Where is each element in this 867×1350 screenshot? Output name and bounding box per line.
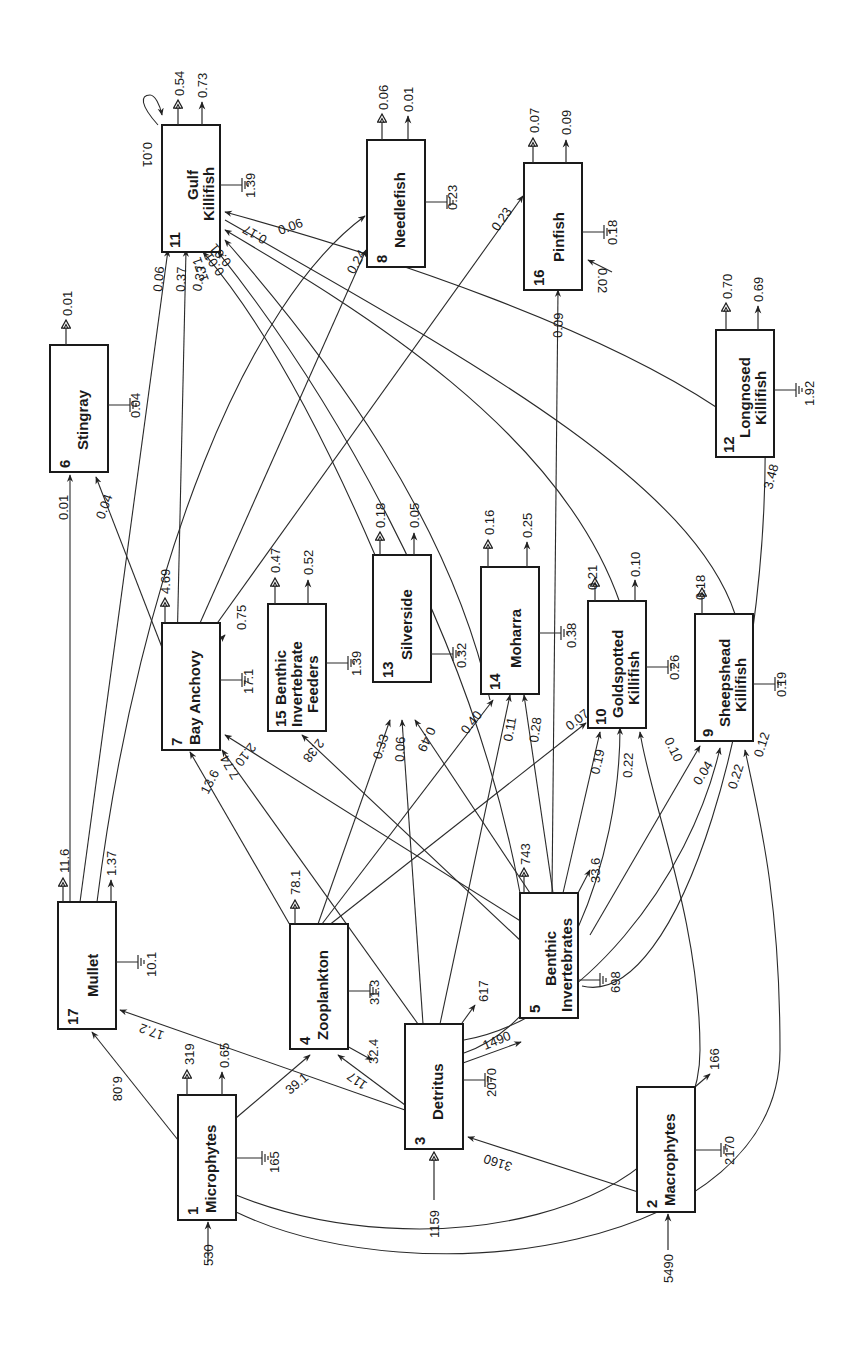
box-name-detritus: Detritus <box>429 1063 446 1120</box>
resp-3: 2070 <box>484 1068 499 1097</box>
box-num-7: 7 <box>168 738 185 746</box>
flow-11-self <box>143 95 162 125</box>
flow-3-13 <box>402 720 423 1024</box>
resp-7: 17.1 <box>241 669 256 694</box>
flow-3-14 <box>440 695 510 1024</box>
box-num-11: 11 <box>166 232 183 248</box>
export-1: 319 <box>182 1043 197 1065</box>
box-name-benthic: Benthic <box>542 931 559 986</box>
flow-3-9 <box>464 748 720 1040</box>
box-name-sheepshead: Sheepshead <box>716 639 733 727</box>
flow-17-8 <box>97 216 365 902</box>
box-num-2: 2 <box>643 1200 660 1208</box>
export-12: 0.70 <box>720 274 735 299</box>
box-num-3: 3 <box>411 1137 428 1145</box>
flow-5-7 <box>225 735 522 922</box>
flow-label-5-12: 3.48 <box>760 462 781 490</box>
out-11: 0.73 <box>195 73 210 98</box>
food-web-diagram: 1 Microphytes 2 Macrophytes 3 Detritus 4… <box>0 0 867 1350</box>
export-11: 0.54 <box>172 71 187 96</box>
flow-label-3-16: 0.09 <box>550 312 566 338</box>
out-7: 0.75 <box>234 605 249 630</box>
box-name-microphytes: Microphytes <box>202 1125 219 1213</box>
box-name-silverside: Silverside <box>398 589 415 660</box>
export-15: 0.47 <box>268 548 283 573</box>
box-name-moharra: Moharra <box>507 608 524 668</box>
out-17: 1.37 <box>104 851 119 876</box>
resp-13: 0.32 <box>454 643 469 668</box>
flow-label-3-17: 17.2 <box>137 1021 166 1044</box>
flow-label-3-5: 1490 <box>481 1028 513 1053</box>
flow-label-3-14: 0.11 <box>500 716 519 743</box>
box-name-zooplankton: Zooplankton <box>314 950 331 1040</box>
flow-label-4-13: 0.33 <box>370 732 392 761</box>
import-3: 1159 <box>427 1210 442 1238</box>
out-15: 0.52 <box>301 550 316 575</box>
box-num-9: 9 <box>699 729 716 737</box>
box-num-1: 1 <box>184 1207 201 1215</box>
box-name-bay-anchovy: Bay Anchovy <box>186 650 203 745</box>
box-num-13: 13 <box>379 661 396 678</box>
flow-label-3-9: 0.22 <box>725 762 747 791</box>
out-16: 0.09 <box>559 110 574 135</box>
box-name-killifish-12: Killifish <box>752 371 769 425</box>
export-17: 11.6 <box>57 849 72 873</box>
flow-14-11 <box>225 240 490 700</box>
out-3: 617 <box>476 980 491 1002</box>
box-name-needlefish: Needlefish <box>391 172 408 248</box>
box-num-6: 6 <box>56 460 73 468</box>
out-14: 0.25 <box>520 513 535 538</box>
box-num-15: 15 <box>272 710 289 727</box>
flow-label-1-17: 6.08 <box>110 1076 125 1101</box>
resp-5: 698 <box>608 971 623 993</box>
flow-label-5-9: 0.04 <box>690 758 716 787</box>
flow-label-7-6: 0.04 <box>93 492 116 521</box>
resp-2: 2170 <box>722 1136 737 1165</box>
flow-7-8 <box>188 250 366 650</box>
flow-label-5-10: 0.19 <box>587 748 607 776</box>
box-name-macrophytes: Macrophytes <box>661 1113 678 1206</box>
flow-label-3-13: 0.06 <box>392 736 408 762</box>
export-10: 0.21 <box>585 565 600 590</box>
resp-17: 10.1 <box>144 952 159 977</box>
resp-10: 0.26 <box>667 655 682 680</box>
box-num-12: 12 <box>720 436 737 453</box>
flow-1-17 <box>92 1032 178 1140</box>
resp-14: 0.38 <box>564 623 579 648</box>
export-16: 0.07 <box>527 108 542 133</box>
resp-12: 1.92 <box>802 381 817 406</box>
box-name-feeders: Feeders <box>304 655 321 713</box>
box-num-10: 10 <box>592 708 609 725</box>
self-loop-11: 0.01 <box>140 142 155 167</box>
out-1: 0.65 <box>217 1043 232 1068</box>
box-num-14: 14 <box>486 673 503 690</box>
export-8: 0.06 <box>376 85 391 110</box>
flow-label-17-8: 0.06 <box>276 215 305 238</box>
export-7: 4.69 <box>158 569 173 594</box>
flow-5-11 <box>218 252 520 893</box>
out-2: 166 <box>707 1048 722 1070</box>
box-name-longnosed: Longnosed <box>736 357 753 438</box>
out-10: 0.10 <box>628 552 643 577</box>
export-13: 0.18 <box>373 503 388 528</box>
flow-label-1-4: 39.1 <box>282 1070 311 1098</box>
import-1: 530 <box>201 1244 216 1266</box>
flow-label-3-4: 117 <box>344 1069 370 1093</box>
flow-3-out <box>462 1005 475 1023</box>
flow-label-7-11: 0.37 <box>173 266 189 292</box>
box-name-stingray: Stingray <box>74 389 91 450</box>
box-name-killifish-9: Killifish <box>732 658 749 712</box>
out-8: 0.01 <box>401 87 416 112</box>
box-name-benthic-15: Benthic <box>272 650 289 705</box>
box-name-invertebrate-15: Invertebrate <box>288 641 305 727</box>
flow-label-12-11: 0.17 <box>240 222 269 248</box>
resp-11: 1.39 <box>243 173 258 198</box>
box-name-invertebrates: Invertebrates <box>558 918 575 1012</box>
resp-15: 1.39 <box>349 651 364 676</box>
resp-1: 165 <box>267 1151 282 1173</box>
box-name-mullet: Mullet <box>84 954 101 997</box>
box-num-8: 8 <box>373 255 390 263</box>
flow-7-11 <box>177 250 186 650</box>
box-name-goldspotted: Goldspotted <box>609 630 626 718</box>
export-5: 743 <box>518 843 533 865</box>
